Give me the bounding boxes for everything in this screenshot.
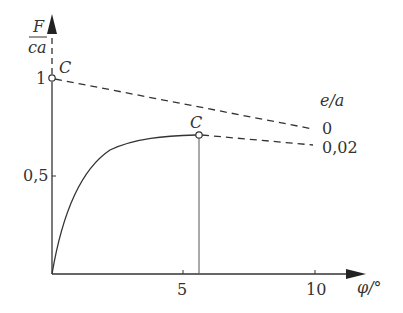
point-c-mid [196,132,202,138]
y-label-numerator: F [33,19,44,35]
legend-series-002: 0,02 [322,140,358,156]
legend-title: e/a [320,93,344,109]
x-axis-label: φ/° [357,280,382,296]
y-label-denominator: ca [28,40,47,56]
y-axis-arrow-icon [47,14,57,34]
series-0-line [55,79,313,129]
chart: F ca 1 0,5 5 10 φ/° C C e/a 0 0,02 [0,0,403,313]
point-c-top [49,75,55,81]
x-tick-10: 10 [306,282,326,298]
annotation-c-mid: C [190,115,202,131]
series-002-curve [52,135,196,274]
annotation-c-top: C [59,60,71,76]
x-tick-5: 5 [177,282,187,298]
y-tick-1: 1 [36,71,46,87]
legend-series-0: 0 [322,121,332,137]
series-002-dashed [202,135,313,145]
y-tick-05: 0,5 [23,168,48,184]
